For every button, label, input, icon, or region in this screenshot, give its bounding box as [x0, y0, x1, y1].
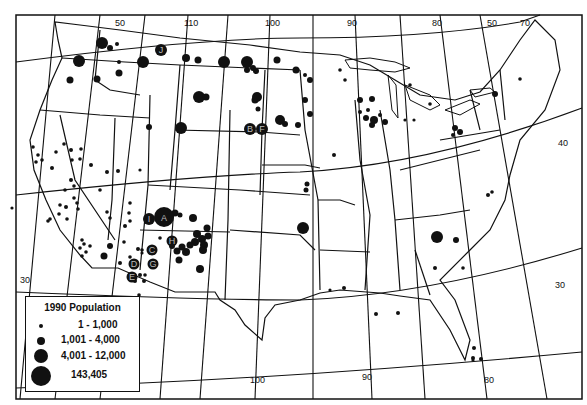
label-right-40: 40 — [558, 138, 568, 148]
site-H: H — [167, 236, 178, 247]
label-lon-100: 100 — [265, 18, 280, 28]
legend-item-large: 4,001 - 12,000 — [26, 349, 139, 367]
site-I: I — [143, 213, 155, 225]
label-left-30: 30 — [20, 275, 30, 285]
svg-text:I: I — [148, 214, 151, 224]
svg-text:H: H — [169, 236, 176, 246]
svg-text:E: E — [129, 272, 135, 282]
svg-text:B: B — [247, 124, 253, 134]
svg-text:G: G — [149, 259, 156, 269]
legend-item-max: 143,405 — [26, 367, 139, 385]
label-bottom-80: 80 — [484, 375, 494, 385]
svg-text:F: F — [259, 124, 265, 134]
legend-label: 4,001 - 12,000 — [61, 350, 126, 361]
dot-large-icon — [34, 349, 48, 363]
legend-title: 1990 Population — [26, 302, 139, 313]
label-lon-110: 110 — [184, 18, 198, 28]
site-E: E — [127, 272, 138, 283]
site-F: F — [256, 123, 268, 135]
site-C: C — [147, 245, 158, 256]
label-lat-50-east: 50 — [487, 18, 497, 28]
label-lon-70: 70 — [520, 18, 530, 28]
legend-label: 1,001 - 4,000 — [61, 334, 120, 345]
label-lon-90: 90 — [347, 18, 357, 28]
label-bottom-100: 100 — [250, 375, 265, 385]
site-A: A — [154, 207, 174, 227]
dot-small-icon — [39, 324, 43, 328]
dot-medium-icon — [37, 337, 45, 345]
label-lat-50-west: 50 — [115, 18, 125, 28]
site-B: B — [244, 123, 256, 135]
site-D: D — [129, 259, 140, 270]
legend: 1990 Population 1 - 1,000 1,001 - 4,000 … — [25, 296, 140, 392]
legend-label: 143,405 — [71, 369, 107, 380]
svg-text:D: D — [131, 259, 138, 269]
svg-text:A: A — [161, 213, 167, 223]
legend-label: 1 - 1,000 — [78, 319, 117, 330]
svg-text:J: J — [159, 45, 164, 55]
site-J: J — [155, 44, 167, 56]
label-bottom-90: 90 — [362, 372, 372, 382]
site-G: G — [148, 259, 159, 270]
dot-max-icon — [31, 366, 51, 386]
label-right-30: 30 — [555, 280, 565, 290]
svg-text:C: C — [149, 245, 156, 255]
label-lon-80: 80 — [432, 18, 442, 28]
